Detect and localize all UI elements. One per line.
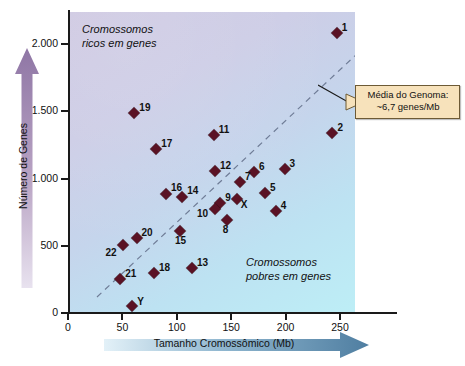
scatter-point-label-Y: Y <box>137 297 144 307</box>
scatter-point-label-2: 2 <box>337 123 343 133</box>
scatter-point-label-19: 19 <box>139 103 150 113</box>
chart-root: Cromossomos ricos em genes Cromossomos p… <box>0 0 465 366</box>
y-tick <box>61 43 68 45</box>
scatter-point-label-11: 11 <box>219 125 230 135</box>
x-tick <box>176 313 178 320</box>
x-tick <box>285 313 287 320</box>
scatter-point-label-X: X <box>241 200 248 210</box>
y-tick-label: 500 <box>40 239 58 251</box>
scatter-point-label-3: 3 <box>290 159 296 169</box>
scatter-point-label-4: 4 <box>281 201 287 211</box>
scatter-point-label-1: 1 <box>342 23 348 33</box>
y-tick <box>61 245 68 247</box>
scatter-point-label-8: 8 <box>223 225 229 235</box>
scatter-point-label-14: 14 <box>187 186 198 196</box>
scatter-point-label-6: 6 <box>259 162 265 172</box>
scatter-point-label-10: 10 <box>197 209 208 219</box>
scatter-point-label-21: 21 <box>125 269 136 279</box>
scatter-point-label-15: 15 <box>175 236 186 246</box>
scatter-point-label-13: 13 <box>197 258 208 268</box>
scatter-point-label-17: 17 <box>161 139 172 149</box>
x-axis-title: Tamanho Cromossômico (Mb) <box>104 337 344 349</box>
scatter-point-label-12: 12 <box>220 161 231 171</box>
x-tick-label: 0 <box>48 321 88 333</box>
zone-gene-rich-label: Cromossomos ricos em genes <box>82 22 157 50</box>
callout-line-2: ~6,7 genes/Mb <box>360 101 456 113</box>
x-tick <box>230 313 232 320</box>
callout-line-1: Média do Genoma: <box>360 89 456 101</box>
zone-gene-poor-label: Cromossomos pobres em genes <box>246 255 331 283</box>
scatter-point-label-7: 7 <box>245 172 251 182</box>
y-tick <box>61 178 68 180</box>
y-tick <box>61 110 68 112</box>
scatter-point-label-5: 5 <box>270 183 276 193</box>
x-tick <box>339 313 341 320</box>
scatter-point-label-16: 16 <box>171 183 182 193</box>
y-tick-label: 0 <box>52 306 58 318</box>
x-tick <box>67 313 69 320</box>
x-tick <box>121 313 123 320</box>
scatter-point-label-20: 20 <box>142 228 153 238</box>
scatter-point-label-22: 22 <box>105 248 116 258</box>
y-axis-title: Número de Genes <box>17 86 29 246</box>
y-axis-line <box>68 10 70 314</box>
genome-average-callout: Média do Genoma: ~6,7 genes/Mb <box>355 85 460 119</box>
scatter-point-label-18: 18 <box>159 263 170 273</box>
